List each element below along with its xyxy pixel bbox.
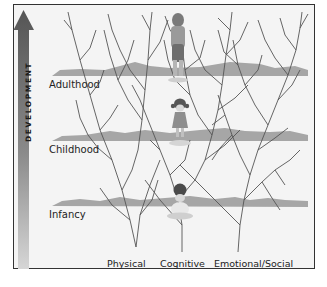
development-axis-label: DEVELOPMENT bbox=[24, 62, 33, 142]
domain-label-physical: Physical bbox=[107, 258, 146, 269]
stage-label-adulthood: Adulthood bbox=[49, 79, 100, 90]
stage-label-childhood: Childhood bbox=[49, 144, 99, 155]
stage-label-infancy: Infancy bbox=[49, 209, 86, 220]
domain-label-emotional-social: Emotional/Social bbox=[214, 258, 293, 269]
domain-label-cognitive: Cognitive bbox=[160, 258, 205, 269]
ground-band-childhood bbox=[52, 128, 308, 141]
